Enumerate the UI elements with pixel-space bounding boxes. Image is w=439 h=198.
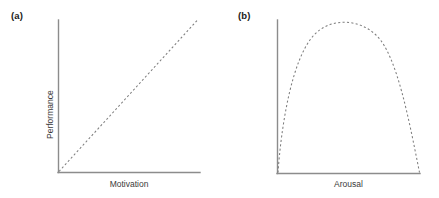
x-axis-label-a: Motivation xyxy=(58,179,200,189)
chart-panel-a: (a) Performance Motivation xyxy=(0,0,220,198)
chart-panel-b: (b) Performance Arousal xyxy=(219,0,439,198)
plot-area-b xyxy=(219,0,439,198)
data-series-arousal-performance xyxy=(278,22,420,172)
data-series-motivation-performance xyxy=(59,21,197,172)
figure-container: (a) Performance Motivation (b) Performan… xyxy=(0,0,439,198)
plot-area-a xyxy=(0,0,220,198)
x-axis-label-b: Arousal xyxy=(277,179,420,189)
y-axis-label-a: Performance xyxy=(45,90,55,139)
